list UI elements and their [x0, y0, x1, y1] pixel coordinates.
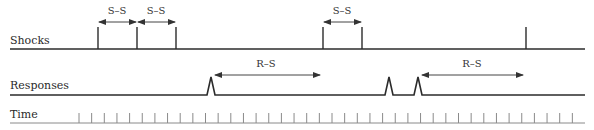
interval-label: S–S: [147, 5, 166, 16]
interval-ss: S–S: [99, 5, 136, 22]
shocks-track: [10, 27, 585, 49]
interval-ss: S–S: [324, 5, 361, 22]
shocks-label: Shocks: [10, 34, 50, 47]
responses-track: [10, 77, 585, 95]
responses-trace: [10, 77, 585, 95]
interval-rs: R–S: [215, 58, 320, 75]
time-label: Time: [10, 108, 38, 121]
schedule-diagram: Shocks Responses Time S–SS–SS–SR–SR–S: [0, 0, 594, 130]
time-track: [10, 113, 585, 123]
interval-label: S–S: [108, 5, 127, 16]
interval-label: S–S: [333, 5, 352, 16]
interval-rs: R–S: [422, 58, 523, 75]
interval-ss: S–S: [138, 5, 175, 22]
interval-label: R–S: [462, 58, 482, 69]
interval-annotations: S–SS–SS–SR–SR–S: [99, 5, 523, 75]
interval-label: R–S: [256, 58, 276, 69]
responses-label: Responses: [10, 79, 69, 92]
